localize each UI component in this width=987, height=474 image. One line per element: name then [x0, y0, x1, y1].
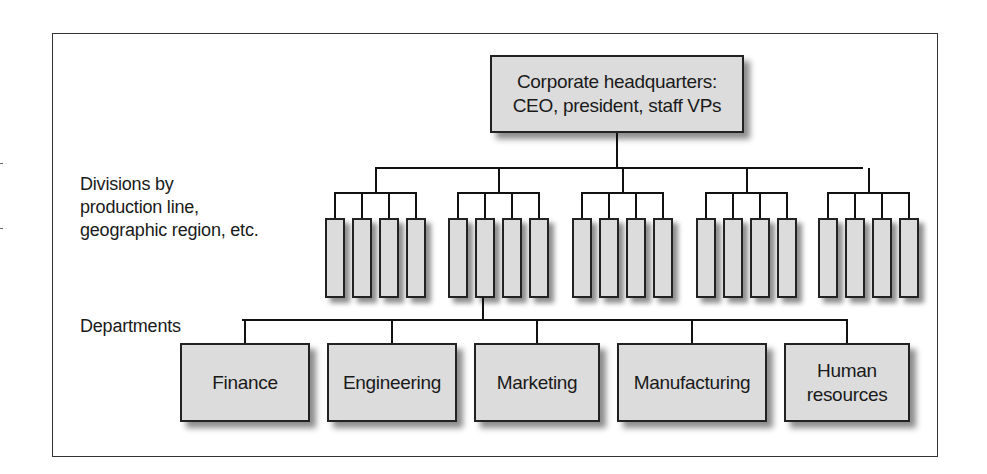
division-unit-box	[475, 218, 495, 298]
department-name: Manufacturing	[634, 371, 751, 395]
department-box: Humanresources	[784, 343, 910, 422]
department-name: Marketing	[497, 371, 578, 395]
division-unit-connector	[705, 193, 707, 219]
department-connector	[244, 320, 246, 344]
divisions-label-line-3: geographic region, etc.	[80, 219, 259, 242]
department-connector	[391, 320, 393, 344]
edge-mark	[0, 228, 3, 229]
department-name-line: Marketing	[497, 371, 578, 395]
divisions-label-line-1: Divisions by	[80, 173, 259, 196]
department-name-line: Manufacturing	[634, 371, 751, 395]
department-name: Humanresources	[807, 359, 888, 407]
headquarters-box: Corporate headquarters: CEO, president, …	[490, 55, 744, 133]
headquarters-line-1: Corporate headquarters:	[513, 70, 722, 94]
division-unit-box	[599, 218, 619, 298]
divisions-label: Divisions by production line, geographic…	[80, 173, 259, 242]
division-unit-box	[653, 218, 673, 298]
division-unit-connector	[361, 193, 363, 219]
division-unit-box	[872, 218, 892, 298]
division-unit-box	[845, 218, 865, 298]
division-unit-connector	[881, 193, 883, 219]
division-unit-box	[723, 218, 743, 298]
headquarters-text: Corporate headquarters: CEO, president, …	[513, 70, 722, 118]
division-unit-connector	[538, 193, 540, 219]
department-name-line: resources	[807, 383, 888, 407]
hq-connector	[616, 133, 618, 169]
department-connector	[691, 320, 693, 344]
departments-connector	[482, 297, 484, 321]
department-box: Finance	[180, 343, 310, 422]
departments-trunk-line	[242, 319, 848, 321]
department-name-line: Finance	[212, 371, 278, 395]
division-unit-connector	[635, 193, 637, 219]
department-connector	[846, 320, 848, 344]
department-name-line: Human	[807, 359, 888, 383]
department-name-line: Engineering	[343, 371, 441, 395]
division-unit-connector	[662, 193, 664, 219]
department-box: Engineering	[327, 343, 457, 422]
division-unit-connector	[415, 193, 417, 219]
division-unit-connector	[759, 193, 761, 219]
department-name: Engineering	[343, 371, 441, 395]
division-unit-connector	[511, 193, 513, 219]
division-group-connector	[498, 168, 500, 194]
division-unit-box	[777, 218, 797, 298]
division-unit-connector	[388, 193, 390, 219]
departments-label: Departments	[80, 315, 181, 338]
division-unit-connector	[786, 193, 788, 219]
division-unit-box	[406, 218, 426, 298]
divisions-label-line-2: production line,	[80, 196, 259, 219]
division-group-bar	[827, 192, 910, 194]
division-unit-box	[448, 218, 468, 298]
department-connector	[536, 320, 538, 344]
division-unit-box	[818, 218, 838, 298]
department-box: Marketing	[474, 343, 600, 422]
division-unit-connector	[827, 193, 829, 219]
edge-mark	[0, 163, 3, 164]
department-name: Finance	[212, 371, 278, 395]
division-unit-box	[696, 218, 716, 298]
division-group-bar	[457, 192, 540, 194]
divisions-trunk-line	[375, 167, 863, 169]
division-unit-connector	[334, 193, 336, 219]
division-unit-connector	[457, 193, 459, 219]
division-unit-box	[899, 218, 919, 298]
division-group-bar	[334, 192, 417, 194]
division-group-bar	[581, 192, 664, 194]
division-unit-connector	[732, 193, 734, 219]
division-unit-box	[529, 218, 549, 298]
division-unit-box	[626, 218, 646, 298]
division-unit-connector	[854, 193, 856, 219]
headquarters-line-2: CEO, president, staff VPs	[513, 94, 722, 118]
division-group-connector	[868, 168, 870, 194]
division-unit-box	[379, 218, 399, 298]
division-unit-box	[502, 218, 522, 298]
department-box: Manufacturing	[617, 343, 767, 422]
division-group-connector	[622, 168, 624, 194]
division-unit-connector	[581, 193, 583, 219]
division-unit-connector	[484, 193, 486, 219]
division-unit-box	[352, 218, 372, 298]
division-unit-box	[572, 218, 592, 298]
division-unit-box	[325, 218, 345, 298]
division-group-connector	[375, 168, 377, 194]
division-group-connector	[746, 168, 748, 194]
division-unit-box	[750, 218, 770, 298]
division-unit-connector	[908, 193, 910, 219]
division-group-bar	[705, 192, 788, 194]
division-unit-connector	[608, 193, 610, 219]
